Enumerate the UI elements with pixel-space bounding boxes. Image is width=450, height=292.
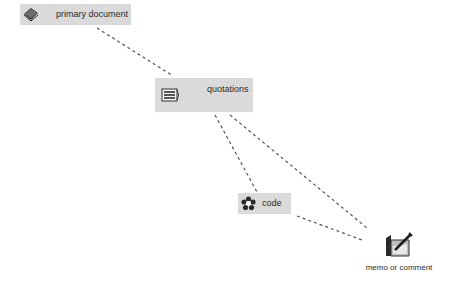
edge-primary-to-quotations bbox=[97, 28, 173, 76]
pen-notepad-icon bbox=[385, 232, 413, 257]
node-code[interactable]: code bbox=[238, 193, 291, 214]
node-quotations[interactable]: quotations bbox=[155, 78, 253, 112]
quotation-lines-icon bbox=[161, 87, 181, 103]
node-label: primary document bbox=[56, 9, 128, 19]
edge-code-to-memo bbox=[297, 216, 362, 240]
book-icon bbox=[23, 7, 39, 22]
node-label: memo or comment bbox=[360, 263, 438, 272]
node-primary-document[interactable]: primary document bbox=[20, 4, 131, 25]
node-label: quotations bbox=[207, 84, 249, 94]
edge-quotations-to-code bbox=[215, 115, 257, 192]
flower-code-icon bbox=[241, 196, 256, 211]
node-memo-or-comment[interactable]: memo or comment bbox=[360, 230, 438, 276]
node-label: code bbox=[262, 198, 282, 208]
